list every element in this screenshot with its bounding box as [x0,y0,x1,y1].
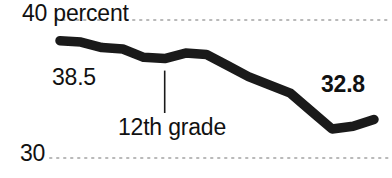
annotation-label-12th-grade: 12th grade [118,116,226,139]
chart-container: 40 percent 30 38.5 32.8 12th grade [0,0,392,178]
axis-label-bottom: 30 [20,142,45,165]
value-label-start: 38.5 [52,66,96,89]
axis-label-top: 40 percent [22,2,129,25]
value-label-end: 32.8 [321,73,365,96]
